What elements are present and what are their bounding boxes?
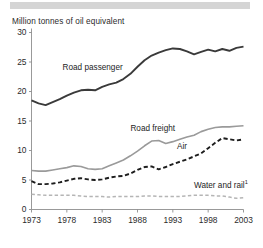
series-label-air: Air [177,142,187,151]
y-tick-label: 15 [5,116,27,126]
series-line-road-passenger [32,47,244,105]
x-tick-label: 1983 [82,215,122,225]
x-tick-label: 1998 [188,215,228,225]
y-tick-label: 5 [5,175,27,185]
series-line-air [32,138,244,184]
chart-figure: Million tonnes of oil equivalent 0510152… [0,0,262,248]
series-label-road-freight: Road freight [130,124,175,133]
series-label-road-passenger: Road passenger [63,63,123,72]
y-tick-label: 25 [5,57,27,67]
x-tick-label: 2003 [224,215,263,225]
x-tick-label: 1973 [12,215,52,225]
series-label-water-and-rail: Water and rail1 [194,179,248,190]
series-line-water-and-rail [32,194,244,198]
y-tick-label: 10 [5,145,27,155]
x-tick-label: 1993 [153,215,193,225]
y-tick-label: 0 [5,204,27,214]
y-tick-label: 20 [5,86,27,96]
x-tick-label: 1978 [47,215,87,225]
y-tick-label: 30 [5,27,27,37]
x-tick-label: 1988 [118,215,158,225]
